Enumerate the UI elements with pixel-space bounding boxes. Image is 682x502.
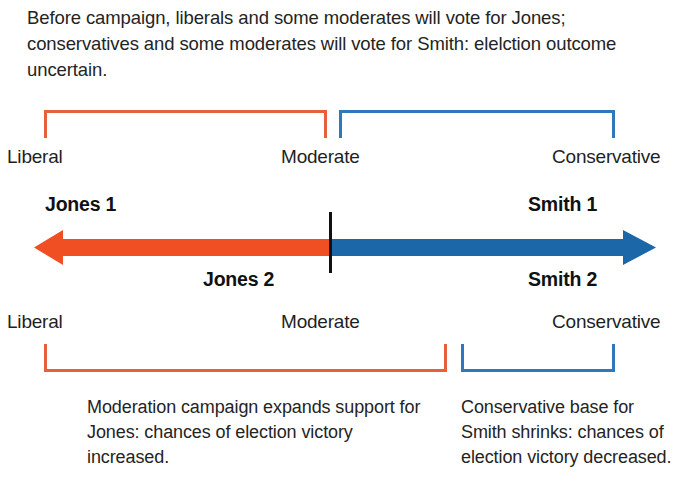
spectrum-top-label-liberal: Liberal [7, 146, 63, 168]
caption-jones-moderation: Moderation campaign expands support for … [87, 395, 437, 470]
axis-right-half-blue [331, 230, 656, 265]
axis-left-half-orange [34, 230, 331, 265]
bracket-top-moderate-conservative [339, 110, 615, 138]
intro-paragraph: Before campaign, liberals and some moder… [27, 5, 655, 83]
bracket-bottom-liberal-moderate [44, 344, 447, 372]
spectrum-bottom-label-conservative: Conservative [552, 311, 660, 333]
spectrum-top-label-conservative: Conservative [552, 146, 660, 168]
diagram-canvas: Before campaign, liberals and some moder… [0, 0, 682, 502]
spectrum-bottom-label-liberal: Liberal [7, 311, 63, 333]
axis-center-tick [329, 212, 332, 273]
caption-smith-conservative-base: Conservative base for Smith shrinks: cha… [461, 395, 676, 470]
callout-smith-2: Smith 2 [528, 268, 597, 291]
spectrum-bottom-label-moderate: Moderate [281, 311, 360, 333]
callout-jones-2: Jones 2 [203, 268, 274, 291]
spectrum-axis-arrow [0, 212, 682, 274]
bracket-bottom-conservative [461, 344, 615, 372]
spectrum-top-label-moderate: Moderate [281, 146, 360, 168]
bracket-top-liberal-moderate [44, 110, 327, 138]
